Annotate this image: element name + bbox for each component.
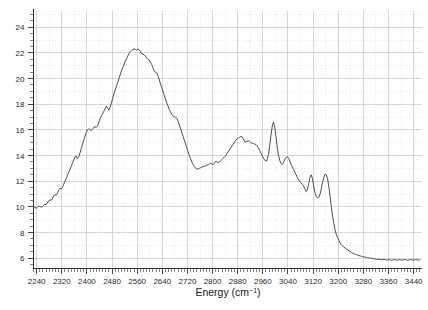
y-axis-tick-labels: 681012141618202224 [16, 23, 25, 263]
spectrum-line [34, 49, 420, 260]
x-tick-label: 2960 [254, 277, 272, 286]
y-tick-label: 10 [16, 203, 25, 212]
y-tick-label: 14 [16, 152, 25, 161]
x-tick-label: 3280 [354, 277, 372, 286]
y-tick-label: 6 [20, 254, 25, 263]
x-tick-label: 2480 [103, 277, 121, 286]
spectrum-chart: 2240232024002480256026402720280028802960… [0, 0, 428, 310]
x-axis-title: Energy (cm−1) [195, 286, 260, 298]
chart-canvas: 2240232024002480256026402720280028802960… [0, 0, 428, 310]
x-tick-label: 2880 [229, 277, 247, 286]
x-tick-label: 2400 [78, 277, 96, 286]
data-series-layer [34, 49, 420, 260]
x-axis-tick-labels: 2240232024002480256026402720280028802960… [28, 277, 423, 286]
y-tick-label: 20 [16, 75, 25, 84]
x-tick-label: 2800 [204, 277, 222, 286]
x-tick-label: 2720 [179, 277, 197, 286]
x-tick-label: 2560 [128, 277, 146, 286]
y-tick-label: 8 [20, 229, 25, 238]
y-tick-label: 16 [16, 126, 25, 135]
x-tick-label: 3200 [329, 277, 347, 286]
y-tick-label: 24 [16, 23, 25, 32]
x-tick-label: 3440 [405, 277, 423, 286]
grid-major-layer [34, 11, 422, 269]
y-axis-ticks [28, 14, 34, 264]
x-tick-label: 3360 [380, 277, 398, 286]
y-tick-label: 18 [16, 100, 25, 109]
x-tick-label: 2240 [28, 277, 46, 286]
x-tick-label: 2640 [153, 277, 171, 286]
x-tick-label: 2320 [53, 277, 71, 286]
y-tick-label: 22 [16, 49, 25, 58]
y-tick-label: 12 [16, 177, 25, 186]
x-axis-ticks [34, 269, 420, 274]
x-tick-label: 3120 [304, 277, 322, 286]
x-tick-label: 3040 [279, 277, 297, 286]
